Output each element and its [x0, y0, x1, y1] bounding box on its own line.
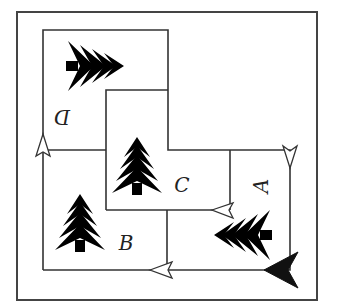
tree-icon-a	[214, 210, 272, 260]
tree-icon-d	[66, 41, 124, 91]
tree-icon-c	[112, 137, 162, 195]
region-label-b: B	[118, 231, 134, 255]
region-label-c: C	[174, 173, 189, 197]
arrow-up-icon	[36, 134, 50, 156]
route-diagram: D C B A	[0, 0, 342, 307]
region-label-d: D	[54, 105, 71, 129]
arrow-left-icon	[212, 203, 233, 218]
tree-icon-b	[55, 194, 105, 252]
region-label-a: A	[249, 179, 273, 195]
start-arrow-icon	[264, 252, 298, 288]
arrow-left-icon	[150, 262, 172, 278]
